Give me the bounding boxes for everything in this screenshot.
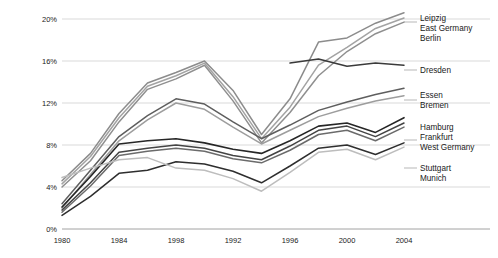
legend-labels-group: LeipzigEast GermanyBerlinDresdenEssenBre… [420, 14, 475, 183]
legend-label-east-germany: East Germany [420, 24, 473, 33]
legend-label-west-germany: West Germany [420, 143, 475, 152]
legend-label-frankfurt: Frankfurt [420, 133, 453, 142]
x-tick-label: 1992 [225, 236, 242, 245]
series-line-essen [62, 88, 404, 204]
y-tick-label: 8% [46, 141, 57, 150]
legend-label-essen: Essen [420, 91, 443, 100]
y-tick-label: 16% [42, 57, 57, 66]
legend-leader-lines [404, 22, 417, 168]
legend-label-leipzig: Leipzig [420, 14, 446, 23]
series-line-munich [62, 147, 404, 191]
chart-plot-area: 0%4%8%12%16%20% 198019841998199219962000… [0, 0, 498, 258]
legend-label-dresden: Dresden [420, 66, 451, 75]
series-line-west-germany [62, 127, 404, 212]
legend-label-stuttgart: Stuttgart [420, 164, 452, 173]
y-tick-label: 20% [42, 15, 57, 24]
legend-label-bremen: Bremen [420, 101, 449, 110]
y-axis-tick-labels: 0%4%8%12%16%20% [42, 15, 57, 234]
x-tick-label: 2004 [396, 236, 413, 245]
y-tick-label: 4% [46, 183, 57, 192]
series-lines-group [62, 13, 404, 216]
x-tick-label: 2000 [339, 236, 356, 245]
x-tick-label: 1998 [168, 236, 185, 245]
x-tick-label: 1984 [111, 236, 128, 245]
y-tick-label: 12% [42, 99, 57, 108]
legend-label-berlin: Berlin [420, 34, 441, 43]
legend-label-hamburg: Hamburg [420, 123, 454, 132]
x-axis-tick-labels: 1980198419981992199620002004 [54, 236, 413, 245]
x-tick-label: 1996 [282, 236, 299, 245]
x-tick-label: 1980 [54, 236, 71, 245]
series-line-frankfurt [62, 123, 404, 210]
legend-label-munich: Munich [420, 174, 447, 183]
y-tick-label: 0% [46, 225, 57, 234]
line-chart-figure: 0%4%8%12%16%20% 198019841998199219962000… [0, 0, 498, 258]
